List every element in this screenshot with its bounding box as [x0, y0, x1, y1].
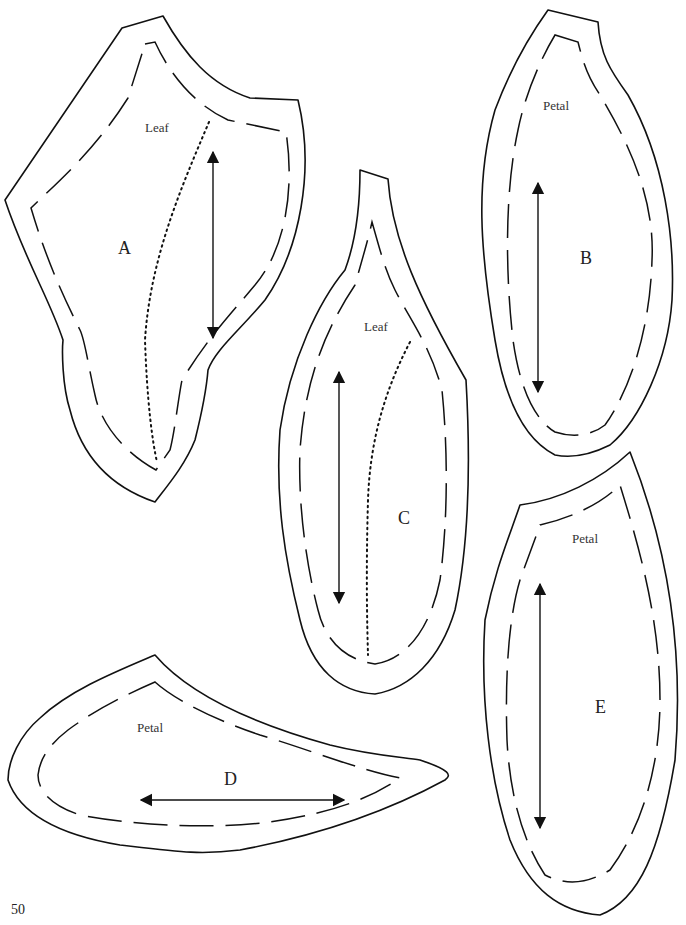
piece-e: Petal E	[484, 452, 678, 915]
piece-d-letter: D	[224, 769, 237, 789]
piece-a-type-label: Leaf	[145, 120, 169, 135]
pattern-sheet: Leaf A Petal B Leaf C Petal D Petal E	[0, 0, 686, 925]
piece-b: Petal B	[482, 10, 673, 456]
piece-b-seam-line	[508, 35, 653, 435]
piece-c: Leaf C	[279, 170, 469, 694]
piece-c-vein-line	[367, 342, 410, 655]
piece-e-letter: E	[595, 697, 606, 717]
piece-d-type-label: Petal	[137, 720, 163, 735]
piece-c-letter: C	[398, 508, 410, 528]
piece-b-cut-line	[482, 10, 673, 456]
piece-e-cut-line	[484, 452, 678, 915]
piece-a: Leaf A	[5, 16, 305, 502]
piece-c-cut-line	[279, 170, 469, 694]
piece-d: Petal D	[8, 655, 448, 852]
piece-a-letter: A	[118, 238, 131, 258]
piece-e-type-label: Petal	[572, 531, 598, 546]
piece-b-letter: B	[580, 248, 592, 268]
piece-a-cut-line	[5, 16, 305, 502]
page-number: 50	[11, 902, 25, 918]
piece-d-cut-line	[8, 655, 448, 852]
piece-c-seam-line	[300, 222, 447, 664]
piece-b-type-label: Petal	[543, 98, 569, 113]
piece-c-type-label: Leaf	[364, 319, 388, 334]
